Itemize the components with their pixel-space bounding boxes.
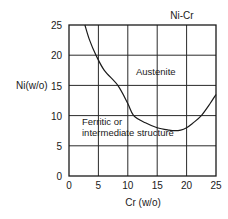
- region-ferritic-label-line2: intermediate structure: [82, 127, 174, 138]
- x-axis-label: Cr (w/o): [125, 197, 161, 208]
- y-tick-25: 25: [51, 20, 63, 31]
- grid: [69, 25, 216, 176]
- x-tick-25: 25: [210, 180, 222, 191]
- x-tick-15: 15: [152, 180, 164, 191]
- y-tick-0: 0: [56, 171, 62, 182]
- x-axis-ticks: 0 5 10 15 20 25: [66, 180, 222, 191]
- region-ferritic-label-line1: Ferritic or: [82, 116, 122, 127]
- ni-cr-phase-chart: 0 5 10 15 20 25 0 5 10 15 20 25 Ni(w/o) …: [0, 0, 228, 219]
- y-axis-label: Ni(w/o): [16, 80, 48, 91]
- y-tick-20: 20: [51, 50, 63, 61]
- x-tick-0: 0: [66, 180, 72, 191]
- austenite-boundary-curve: [85, 25, 216, 131]
- x-tick-5: 5: [96, 180, 102, 191]
- chart-title: Ni-Cr: [170, 10, 194, 21]
- y-axis-ticks: 0 5 10 15 20 25: [51, 20, 63, 182]
- plot-frame: [69, 25, 216, 176]
- x-tick-20: 20: [181, 180, 193, 191]
- x-tick-10: 10: [122, 180, 134, 191]
- y-tick-15: 15: [51, 81, 63, 92]
- y-tick-5: 5: [56, 141, 62, 152]
- region-austenite-label: Austenite: [136, 66, 176, 77]
- y-tick-10: 10: [51, 111, 63, 122]
